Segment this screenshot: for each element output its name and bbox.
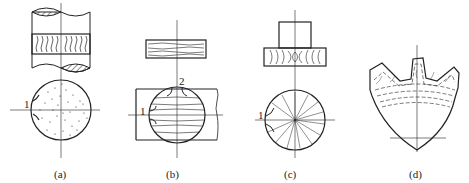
caption-a: (a) — [54, 168, 67, 181]
caption-c: (c) — [284, 168, 297, 181]
fiber-flow-diagram: 1 (a) 2 1 (b) — [0, 0, 469, 183]
panel-c: 1 (c) — [255, 10, 335, 181]
callout-1-b: 1 — [140, 105, 146, 117]
panel-a: 1 (a) — [10, 3, 100, 181]
caption-d: (d) — [409, 168, 422, 181]
panel-d: (d) — [370, 45, 459, 181]
panel-b: 2 1 (b) — [128, 20, 223, 181]
caption-b: (b) — [166, 168, 179, 181]
callout-1-a: 1 — [24, 98, 30, 110]
callout-2-b: 2 — [179, 75, 185, 87]
callout-1-c: 1 — [258, 109, 264, 121]
